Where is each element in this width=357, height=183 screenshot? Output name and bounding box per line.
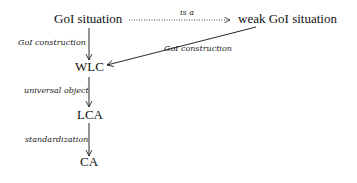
node-lca: LCA (77, 107, 103, 123)
label-goi-construction-right: GoI construction (164, 44, 232, 53)
label-goi-construction-left: GoI construction (18, 38, 86, 47)
label-standardization: standardization (25, 135, 88, 144)
node-weak-goi-situation: weak GoI situation (238, 11, 337, 27)
node-wlc: WLC (75, 59, 104, 75)
node-goi-situation: GoI situation (54, 11, 122, 27)
label-universal-object: universal object (24, 86, 89, 95)
label-is-a: is a (180, 8, 194, 17)
node-ca: CA (80, 154, 98, 170)
